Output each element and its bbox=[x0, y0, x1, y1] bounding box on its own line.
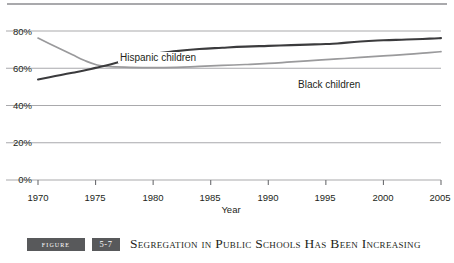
x-tick-label-1995: 1995 bbox=[305, 192, 345, 203]
series-label-hispanic-children: Hispanic children bbox=[118, 52, 198, 63]
caption-title-text: Segregation in Public Schools Has Been I… bbox=[130, 234, 421, 254]
chart-plot-area: 80% 60% 40% 20% 0% 1970 1975 1980 1985 1… bbox=[0, 14, 454, 219]
x-tick-label-1970: 1970 bbox=[18, 192, 58, 203]
figure-container: 80% 60% 40% 20% 0% 1970 1975 1980 1985 1… bbox=[0, 0, 454, 263]
line-chart-svg bbox=[0, 14, 454, 219]
series-label-black-children: Black children bbox=[296, 79, 362, 90]
x-tick-label-1980: 1980 bbox=[133, 192, 173, 203]
x-tick-label-2005: 2005 bbox=[420, 192, 454, 203]
figure-caption: Figure 5-7 Segregation in Public Schools… bbox=[0, 234, 454, 258]
x-tick-label-1985: 1985 bbox=[190, 192, 230, 203]
y-tick-label-60: 60% bbox=[4, 63, 32, 74]
x-tick-label-2000: 2000 bbox=[363, 192, 403, 203]
y-tick-label-80: 80% bbox=[4, 26, 32, 37]
y-tick-label-20: 20% bbox=[4, 137, 32, 148]
y-tick-label-0: 0% bbox=[4, 174, 32, 185]
caption-figure-tag: Figure bbox=[27, 238, 85, 251]
y-tick-label-40: 40% bbox=[4, 100, 32, 111]
x-tick-label-1975: 1975 bbox=[75, 192, 115, 203]
x-axis-title: Year bbox=[201, 204, 261, 215]
x-tick-label-1990: 1990 bbox=[248, 192, 288, 203]
caption-figure-number: 5-7 bbox=[92, 238, 120, 251]
top-divider-rule bbox=[7, 3, 447, 5]
